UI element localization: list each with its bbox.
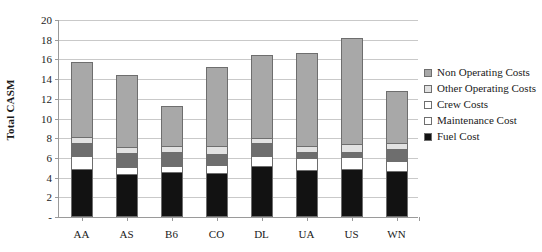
bar-stack[interactable] xyxy=(296,53,318,217)
bars-layer: AAASB6CODLUAUSWN xyxy=(59,20,418,217)
bar-segment[interactable] xyxy=(207,166,227,174)
bar-segment[interactable] xyxy=(297,159,317,172)
x-axis-tick xyxy=(352,217,353,221)
bar-stack[interactable] xyxy=(161,106,183,217)
bar-segment[interactable] xyxy=(162,153,182,167)
y-axis-tick-label: 14 xyxy=(22,73,52,85)
y-axis-tick-label: 16 xyxy=(22,53,52,65)
bar-segment[interactable] xyxy=(252,167,272,216)
x-axis-tick-label: AA xyxy=(74,228,90,240)
stacked-bar-chart: Total CASM -2468101214161820 AAASB6CODLU… xyxy=(0,0,542,252)
bar-group[interactable]: UA xyxy=(296,20,318,217)
bar-segment[interactable] xyxy=(342,145,362,153)
legend-item-label: Other Operating Costs xyxy=(437,82,536,95)
y-axis-tick-label: 2 xyxy=(22,191,52,203)
x-axis-end-tick xyxy=(419,217,420,221)
legend-item-label: Maintenance Cost xyxy=(437,114,517,127)
bar-segment[interactable] xyxy=(117,175,137,216)
bar-segment[interactable] xyxy=(72,157,92,171)
legend-swatch-icon xyxy=(424,85,432,93)
legend-item-label: Crew Costs xyxy=(437,98,488,111)
y-axis-tick-label: 4 xyxy=(22,172,52,184)
legend-item[interactable]: Crew Costs xyxy=(424,98,540,111)
legend-swatch-icon xyxy=(424,69,432,77)
x-axis-tick-label: DL xyxy=(254,228,269,240)
x-axis-tick xyxy=(127,217,128,221)
bar-stack[interactable] xyxy=(386,91,408,217)
bar-segment[interactable] xyxy=(207,174,227,216)
gridline xyxy=(59,217,418,218)
bar-group[interactable]: B6 xyxy=(161,20,183,217)
legend-item-label: Fuel Cost xyxy=(437,130,479,143)
bar-segment[interactable] xyxy=(297,171,317,216)
bar-segment[interactable] xyxy=(207,147,227,155)
bar-stack[interactable] xyxy=(341,38,363,217)
bar-stack[interactable] xyxy=(251,55,273,217)
bar-segment[interactable] xyxy=(297,54,317,147)
bar-segment[interactable] xyxy=(387,92,407,144)
x-axis-tick xyxy=(172,217,173,221)
y-axis-tick-label: 18 xyxy=(22,34,52,46)
x-axis-tick-label: CO xyxy=(209,228,224,240)
y-axis-title: Total CASM xyxy=(0,0,20,220)
bar-segment[interactable] xyxy=(162,173,182,217)
y-axis-title-label: Total CASM xyxy=(4,79,16,140)
bar-segment[interactable] xyxy=(207,68,227,147)
y-axis-tick-label: 20 xyxy=(22,14,52,26)
y-axis-tick xyxy=(55,217,59,218)
bar-segment[interactable] xyxy=(387,162,407,173)
x-axis-tick xyxy=(397,217,398,221)
x-axis-tick-label: US xyxy=(344,228,358,240)
x-axis-tick-label: WN xyxy=(387,228,405,240)
bar-stack[interactable] xyxy=(116,75,138,217)
legend-item[interactable]: Non Operating Costs xyxy=(424,66,540,79)
y-axis-tick-label: 8 xyxy=(22,132,52,144)
bar-segment[interactable] xyxy=(387,150,407,162)
x-axis-tick xyxy=(217,217,218,221)
bar-segment[interactable] xyxy=(342,39,362,145)
legend-item[interactable]: Fuel Cost xyxy=(424,130,540,143)
bar-segment[interactable] xyxy=(342,158,362,171)
bar-segment[interactable] xyxy=(387,172,407,216)
y-axis-tick-label: 12 xyxy=(22,93,52,105)
y-axis-tick-label: 10 xyxy=(22,113,52,125)
x-axis-tick xyxy=(262,217,263,221)
bar-group[interactable]: AA xyxy=(71,20,93,217)
bar-stack[interactable] xyxy=(71,62,93,217)
bar-segment[interactable] xyxy=(72,144,92,157)
x-axis-tick-label: AS xyxy=(119,228,133,240)
bar-group[interactable]: DL xyxy=(251,20,273,217)
bar-segment[interactable] xyxy=(72,63,92,138)
bar-group[interactable]: US xyxy=(341,20,363,217)
bar-segment[interactable] xyxy=(117,154,137,169)
bar-group[interactable]: CO xyxy=(206,20,228,217)
bar-segment[interactable] xyxy=(342,170,362,216)
x-axis-tick-label: UA xyxy=(299,228,315,240)
legend-item-label: Non Operating Costs xyxy=(437,66,530,79)
bar-segment[interactable] xyxy=(207,155,227,167)
bar-group[interactable]: WN xyxy=(386,20,408,217)
bar-segment[interactable] xyxy=(252,144,272,157)
legend-swatch-icon xyxy=(424,101,432,109)
chart-legend: Non Operating CostsOther Operating Costs… xyxy=(424,66,540,146)
y-axis-tick-label: 6 xyxy=(22,152,52,164)
bar-segment[interactable] xyxy=(117,168,137,175)
bar-group[interactable]: AS xyxy=(116,20,138,217)
legend-swatch-icon xyxy=(424,117,432,125)
bar-segment[interactable] xyxy=(252,56,272,139)
x-axis-tick-label: B6 xyxy=(165,228,178,240)
bar-segment[interactable] xyxy=(117,76,137,148)
legend-item[interactable]: Other Operating Costs xyxy=(424,82,540,95)
x-axis-tick xyxy=(82,217,83,221)
y-axis-tick-label: - xyxy=(22,211,52,223)
legend-item[interactable]: Maintenance Cost xyxy=(424,114,540,127)
bar-stack[interactable] xyxy=(206,67,228,217)
x-axis-tick xyxy=(307,217,308,221)
plot-area: -2468101214161820 AAASB6CODLUAUSWN xyxy=(58,20,418,217)
bar-segment[interactable] xyxy=(252,157,272,168)
bar-segment[interactable] xyxy=(72,170,92,216)
legend-swatch-icon xyxy=(424,133,432,141)
bar-segment[interactable] xyxy=(162,107,182,148)
